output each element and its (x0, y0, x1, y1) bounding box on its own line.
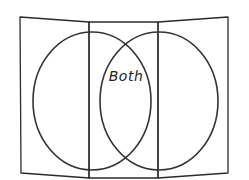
right-circle (100, 32, 218, 170)
venn-diagram: Both (0, 0, 249, 180)
venn-diagram-svg: Both (0, 0, 249, 180)
venn-circles (33, 32, 218, 170)
left-circle (33, 32, 151, 170)
intersection-label: Both (109, 68, 144, 84)
